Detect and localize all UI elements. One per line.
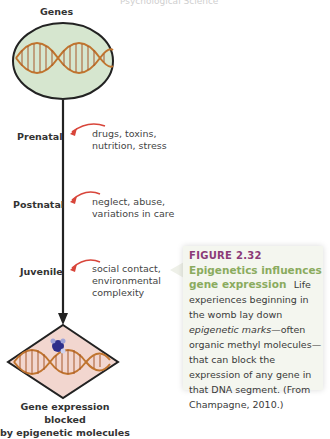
factor-line: neglect, abuse,: [92, 196, 174, 208]
body-text: —often organic methyl molecules—that can…: [189, 324, 321, 410]
bottom-label-line: Gene expression blocked: [0, 400, 130, 426]
factor-line: social contact,: [92, 263, 161, 275]
figure-body: Life experiences beginning in the womb l…: [189, 279, 321, 410]
prenatal-factors: drugs, toxins, nutrition, stress: [92, 128, 167, 152]
bottom-label-line: by epigenetic molecules: [0, 426, 130, 439]
figure-caption: FIGURE 2.32 Epigenetics influences gene …: [183, 246, 323, 390]
caption-pointer: [170, 262, 184, 278]
genes-label: Genes: [40, 6, 73, 17]
stage-prenatal: Prenatal: [17, 131, 62, 142]
juvenile-factors: social contact, environmental complexity: [92, 263, 161, 299]
factor-line: nutrition, stress: [92, 140, 167, 152]
factor-line: environmental: [92, 275, 161, 287]
figure-caption-text: Epigenetics influences gene expression L…: [189, 263, 323, 412]
body-italic-term: epigenetic marks: [189, 324, 271, 335]
stage-juvenile: Juvenile: [20, 266, 63, 277]
timeline-arrowhead-icon: [58, 313, 68, 325]
factor-line: variations in care: [92, 208, 174, 220]
factor-line: complexity: [92, 287, 161, 299]
blocked-gene-diamond: [8, 325, 118, 398]
blocked-expression-label: Gene expression blocked by epigenetic mo…: [0, 400, 130, 439]
stage-postnatal: Postnatal: [13, 199, 64, 210]
figure-number: FIGURE 2.32: [189, 250, 262, 261]
postnatal-factors: neglect, abuse, variations in care: [92, 196, 174, 220]
factor-line: drugs, toxins,: [92, 128, 167, 140]
